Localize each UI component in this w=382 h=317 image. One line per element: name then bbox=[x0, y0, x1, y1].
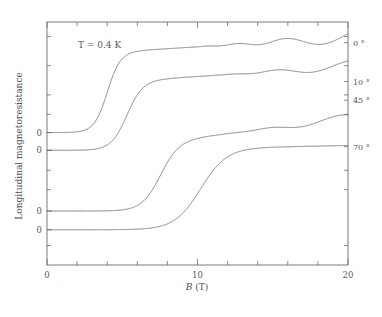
temperature-annotation: T = 0.4 K bbox=[78, 40, 121, 50]
y-tick-label: 0 bbox=[37, 225, 42, 235]
x-axis-ticks bbox=[47, 22, 348, 265]
x-tick-label: 10 bbox=[192, 270, 203, 280]
axes-frame bbox=[47, 22, 348, 265]
curve-70deg bbox=[47, 146, 348, 230]
x-tick-label: 0 bbox=[44, 270, 49, 280]
magnetoresistance-plot: 01020 0000 0 °10 °45 °70 ° B (T) Longitu… bbox=[0, 0, 382, 317]
angle-label-45: 45 ° bbox=[353, 96, 370, 105]
figure-root: 01020 0000 0 °10 °45 °70 ° B (T) Longitu… bbox=[0, 0, 382, 317]
x-tick-label: 20 bbox=[343, 270, 354, 280]
x-axis-tick-labels: 01020 bbox=[44, 270, 353, 280]
y-axis-title: Longitudinal magnetoresistance bbox=[14, 72, 24, 220]
y-tick-label: 0 bbox=[37, 145, 42, 155]
y-tick-label: 0 bbox=[37, 206, 42, 216]
data-curves bbox=[47, 34, 348, 230]
plot-frame bbox=[47, 22, 348, 265]
angle-label-10: 10 ° bbox=[353, 78, 370, 87]
series-angle-labels: 0 °10 °45 °70 ° bbox=[353, 39, 370, 152]
curve-45deg bbox=[47, 115, 348, 211]
angle-label-0: 0 ° bbox=[353, 39, 365, 48]
y-axis-tick-labels: 0000 bbox=[37, 128, 42, 235]
angle-label-70: 70 ° bbox=[353, 143, 370, 152]
curve-10deg bbox=[47, 61, 348, 150]
x-axis-title-unit: (T) bbox=[192, 282, 208, 292]
x-axis-title: B (T) bbox=[185, 282, 209, 292]
y-tick-label: 0 bbox=[37, 128, 42, 138]
y-axis-ticks bbox=[47, 37, 348, 246]
